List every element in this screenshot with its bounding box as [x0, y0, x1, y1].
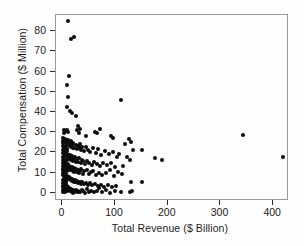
data-point — [66, 130, 70, 134]
x-tick-mark — [114, 200, 115, 205]
data-point — [121, 164, 125, 168]
data-point — [103, 149, 107, 153]
data-point — [241, 133, 245, 137]
data-point — [140, 148, 144, 152]
data-point — [117, 152, 121, 156]
y-axis-title: Total Compensation ($ Million) — [14, 0, 30, 200]
data-point — [111, 150, 115, 154]
data-point — [130, 189, 134, 193]
data-point — [96, 147, 100, 151]
data-point — [129, 140, 133, 144]
y-tick-mark — [50, 91, 55, 92]
data-point — [109, 161, 113, 165]
data-point — [74, 114, 78, 118]
x-tick-mark — [61, 200, 62, 205]
data-point — [65, 189, 69, 193]
data-point — [65, 158, 69, 162]
x-tick-mark — [167, 200, 168, 205]
data-point — [281, 155, 285, 159]
data-point — [113, 165, 117, 169]
data-point — [88, 150, 92, 154]
data-point — [128, 158, 132, 162]
x-tick-label: 200 — [147, 207, 187, 218]
y-tick-mark — [50, 111, 55, 112]
x-tick-label: 400 — [252, 207, 292, 218]
data-point — [131, 148, 135, 152]
data-point — [120, 172, 124, 176]
data-point — [108, 191, 112, 195]
y-tick-mark — [50, 192, 55, 193]
data-point — [113, 189, 117, 193]
x-tick-mark — [219, 200, 220, 205]
y-tick-mark — [50, 50, 55, 51]
data-point — [153, 156, 157, 160]
y-tick-mark — [50, 131, 55, 132]
data-point — [99, 153, 103, 157]
scatter-chart-figure: 01020304050607080 0100200300400 Total Co… — [0, 0, 304, 246]
data-point — [129, 180, 133, 184]
data-point — [65, 163, 69, 167]
data-point — [67, 74, 71, 78]
data-point — [114, 184, 118, 188]
data-point — [95, 131, 99, 135]
plot-area — [55, 14, 288, 200]
data-point — [98, 127, 102, 131]
data-point — [78, 127, 82, 131]
data-point — [66, 95, 70, 99]
x-tick-label: 100 — [94, 207, 134, 218]
data-point — [119, 190, 123, 194]
data-point — [65, 83, 69, 87]
x-tick-mark — [272, 200, 273, 205]
data-point — [72, 35, 76, 39]
data-point — [65, 169, 69, 173]
data-point — [65, 178, 69, 182]
y-tick-mark — [50, 30, 55, 31]
data-point — [65, 184, 69, 188]
y-tick-mark — [50, 71, 55, 72]
data-point — [91, 146, 95, 150]
data-point — [77, 131, 81, 135]
data-point — [160, 158, 164, 162]
y-tick-mark — [50, 151, 55, 152]
x-tick-label: 0 — [41, 207, 81, 218]
data-point — [111, 136, 115, 140]
data-point — [123, 142, 127, 146]
data-point — [98, 164, 102, 168]
data-point — [108, 168, 112, 172]
data-point — [107, 152, 111, 156]
data-point — [94, 151, 98, 155]
x-tick-label: 300 — [199, 207, 239, 218]
x-axis-title: Total Revenue ($ Billion) — [45, 222, 295, 234]
data-point — [66, 19, 70, 23]
data-point — [112, 174, 116, 178]
y-tick-mark — [50, 172, 55, 173]
data-point — [140, 180, 144, 184]
data-point — [104, 171, 108, 175]
data-point — [119, 98, 123, 102]
data-point — [84, 134, 88, 138]
